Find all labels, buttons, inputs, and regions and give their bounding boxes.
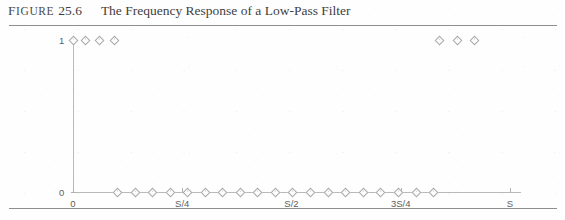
data-marker — [435, 36, 445, 46]
data-marker — [288, 188, 298, 198]
data-marker — [341, 188, 351, 198]
data-marker — [110, 36, 120, 46]
x-axis-tick — [510, 188, 511, 193]
figure-label-word: FIGURE — [8, 3, 54, 19]
x-axis-tick-label: S/2 — [284, 198, 298, 209]
data-marker — [470, 36, 480, 46]
data-marker — [112, 188, 122, 198]
data-marker — [148, 188, 158, 198]
data-marker — [200, 188, 210, 198]
data-marker — [376, 188, 386, 198]
y-axis-tick-label: 0 — [59, 187, 64, 198]
chart-plot-area: 0S/4S/23S/4S01 — [0, 26, 565, 206]
figure-caption-line: FIGURE 25.6 The Frequency Response of a … — [8, 3, 351, 19]
data-marker — [235, 188, 245, 198]
data-marker — [429, 188, 439, 198]
figure-number: 25.6 — [58, 3, 82, 19]
y-axis-tick — [71, 192, 76, 193]
data-marker — [183, 188, 193, 198]
x-axis-tick-label: 3S/4 — [391, 198, 411, 209]
data-marker — [218, 188, 228, 198]
data-marker — [253, 188, 263, 198]
figure-page: FIGURE 25.6 The Frequency Response of a … — [0, 0, 565, 220]
data-marker — [411, 188, 421, 198]
x-axis-tick-label: S/4 — [175, 198, 189, 209]
x-axis-tick-label: S — [507, 198, 513, 209]
data-marker — [270, 188, 280, 198]
x-axis-tick-label: 0 — [70, 198, 75, 209]
data-marker — [452, 36, 462, 46]
figure-title: The Frequency Response of a Low-Pass Fil… — [101, 3, 351, 19]
data-marker — [95, 36, 105, 46]
data-marker — [323, 188, 333, 198]
y-axis-tick-label: 1 — [59, 35, 64, 46]
data-marker — [69, 36, 79, 46]
y-axis-line — [73, 40, 74, 193]
data-marker — [305, 188, 315, 198]
data-marker — [358, 188, 368, 198]
data-marker — [165, 188, 175, 198]
data-marker — [80, 36, 90, 46]
figure-rule-bottom — [9, 208, 557, 209]
data-marker — [130, 188, 140, 198]
figure-caption: FIGURE 25.6 The Frequency Response of a … — [8, 3, 351, 19]
